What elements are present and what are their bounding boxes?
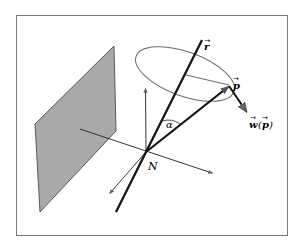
svg-text:→: → <box>250 114 256 122</box>
vector-diagram: r → p → w → ( p → ) α N <box>0 0 300 249</box>
svg-text:→: → <box>233 75 239 83</box>
label-N: N <box>147 160 158 173</box>
label-alpha: α <box>166 119 173 130</box>
svg-text:→: → <box>205 37 211 45</box>
svg-text:): ) <box>268 119 273 130</box>
normal-arrow <box>146 89 147 152</box>
svg-text:→: → <box>262 114 268 122</box>
